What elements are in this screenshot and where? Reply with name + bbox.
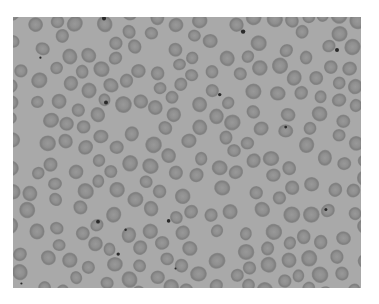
red-blood-cell xyxy=(114,95,133,115)
red-blood-cell xyxy=(277,41,296,60)
red-blood-cell xyxy=(190,17,210,31)
red-blood-cell xyxy=(330,91,349,109)
red-blood-cell xyxy=(226,162,246,181)
red-blood-cell xyxy=(309,104,330,124)
platelet-dot xyxy=(218,93,221,96)
red-blood-cell xyxy=(120,226,138,245)
red-blood-cell xyxy=(264,222,283,241)
red-blood-cell xyxy=(257,254,279,276)
red-blood-cell xyxy=(296,229,311,245)
red-blood-cell xyxy=(299,50,314,66)
red-blood-cell xyxy=(150,66,165,81)
red-blood-cell xyxy=(283,206,301,223)
red-blood-cell xyxy=(97,92,112,108)
red-blood-cell xyxy=(276,272,294,288)
red-blood-cell xyxy=(326,180,345,199)
red-blood-cell xyxy=(54,28,70,44)
red-blood-cell xyxy=(220,202,239,221)
red-blood-cell xyxy=(51,93,67,109)
red-blood-cell xyxy=(357,153,361,168)
red-blood-cell xyxy=(13,131,21,149)
red-blood-cell xyxy=(131,92,150,111)
red-blood-cell xyxy=(153,234,171,251)
red-blood-cell xyxy=(46,190,64,209)
red-blood-cell xyxy=(142,133,165,156)
red-blood-cell xyxy=(75,64,89,79)
red-blood-cell xyxy=(29,223,44,240)
red-blood-cell xyxy=(167,17,185,34)
red-blood-cell xyxy=(13,17,20,21)
red-blood-cell xyxy=(109,140,125,155)
red-blood-cell xyxy=(150,17,165,26)
red-blood-cell xyxy=(21,185,38,203)
red-blood-cell xyxy=(346,77,361,97)
platelet-dot xyxy=(175,267,177,269)
red-blood-cell xyxy=(336,156,352,171)
red-blood-cell xyxy=(251,119,271,138)
red-blood-cell xyxy=(308,69,325,87)
red-blood-cell xyxy=(301,120,318,138)
red-blood-cell xyxy=(99,275,115,288)
red-blood-cell xyxy=(195,151,208,166)
red-blood-cell xyxy=(17,200,37,220)
red-blood-cell xyxy=(313,234,328,250)
red-blood-cell xyxy=(108,35,125,51)
red-blood-cell xyxy=(270,56,289,76)
red-blood-cell xyxy=(106,49,125,68)
red-blood-cell xyxy=(304,176,320,192)
red-blood-cell xyxy=(237,243,255,260)
red-blood-cell xyxy=(88,217,106,234)
red-blood-cell xyxy=(40,110,61,130)
red-blood-cell xyxy=(78,45,99,66)
red-blood-cell xyxy=(202,33,219,49)
red-blood-cell xyxy=(244,102,263,121)
red-blood-cell xyxy=(190,95,210,115)
red-blood-cell xyxy=(328,17,350,26)
red-blood-cell xyxy=(243,17,265,28)
red-blood-cell xyxy=(13,245,30,264)
red-blood-cell xyxy=(27,17,45,34)
red-blood-cell xyxy=(69,101,87,119)
red-blood-cell xyxy=(101,75,122,95)
red-blood-cell xyxy=(180,239,200,259)
red-blood-cell xyxy=(48,220,66,237)
red-blood-cell xyxy=(119,17,140,23)
red-blood-cell xyxy=(88,104,108,125)
red-blood-cell xyxy=(340,60,358,78)
red-blood-cell xyxy=(13,93,21,113)
red-blood-cell xyxy=(349,98,361,113)
red-blood-cell xyxy=(292,269,305,284)
red-blood-cell xyxy=(47,177,63,191)
red-blood-cell xyxy=(245,83,261,99)
red-blood-cell xyxy=(239,226,254,242)
red-blood-cell xyxy=(189,265,207,282)
red-blood-cell xyxy=(217,48,238,69)
red-blood-cell xyxy=(62,74,80,93)
red-blood-cell xyxy=(279,106,298,124)
red-blood-cell xyxy=(104,165,117,178)
red-blood-cell xyxy=(59,116,75,131)
red-blood-cell xyxy=(13,182,23,201)
red-blood-cell xyxy=(158,251,175,268)
red-blood-cell xyxy=(251,199,273,221)
blood-smear-image xyxy=(13,17,361,288)
red-blood-cell xyxy=(262,151,279,167)
red-blood-cell xyxy=(231,65,249,83)
red-blood-cell xyxy=(106,256,124,272)
red-blood-cell xyxy=(314,90,328,105)
red-blood-cell xyxy=(158,145,179,166)
red-blood-cell xyxy=(153,81,168,95)
red-blood-cell xyxy=(13,62,30,81)
red-blood-cell xyxy=(208,222,225,240)
red-blood-cell xyxy=(186,165,206,185)
red-blood-cell xyxy=(240,137,254,150)
red-blood-cell xyxy=(144,26,160,41)
red-blood-cell xyxy=(330,74,347,92)
red-blood-cell xyxy=(13,158,21,179)
red-blood-cell xyxy=(167,208,185,226)
red-blood-cell xyxy=(187,28,202,42)
platelet-dot xyxy=(96,220,100,224)
red-blood-cell xyxy=(222,112,243,132)
red-blood-cell xyxy=(66,162,86,181)
red-blood-cell xyxy=(48,59,66,77)
